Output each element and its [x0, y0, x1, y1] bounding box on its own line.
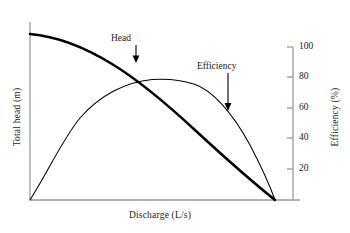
- right-axis-tick-label-20: 20: [299, 163, 309, 173]
- efficiency-annotation-arrow-icon: [225, 73, 232, 111]
- head-annotation-arrow-icon: [133, 45, 140, 63]
- series-label-efficiency: Efficiency: [197, 61, 236, 71]
- series-label-head: Head: [111, 33, 131, 43]
- right-axis-tick-label-40: 40: [299, 132, 309, 142]
- chart-plot-area: [0, 0, 350, 233]
- x-axis-title: Discharge (L/s): [0, 210, 320, 220]
- right-axis-tick-label-80: 80: [299, 71, 309, 81]
- series-line-head: [30, 34, 275, 200]
- right-axis-ticks: [287, 47, 293, 169]
- chart-figure: 100 80 60 40 20 Total head (m) Efficienc…: [0, 0, 350, 233]
- right-axis-tick-label-100: 100: [299, 41, 313, 51]
- series-line-efficiency: [30, 79, 275, 200]
- right-axis-tick-label-60: 60: [299, 102, 309, 112]
- y-axis-right-title: Efficiency (%): [330, 67, 340, 167]
- y-axis-left-title: Total head (m): [12, 67, 22, 167]
